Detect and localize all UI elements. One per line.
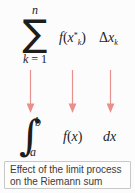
delta-subscript-k: k bbox=[114, 38, 118, 47]
differential-term: dx bbox=[103, 130, 116, 144]
integrand-close-paren: ) bbox=[78, 129, 83, 144]
riemann-sum-expression: n ∑ k = 1 f(x*k) Δxk bbox=[0, 4, 135, 70]
down-arrow-icon-2-head bbox=[69, 104, 77, 114]
down-arrow-icon-3-head bbox=[107, 104, 115, 114]
riemann-sum-to-integral-figure: n ∑ k = 1 f(x*k) Δxk ∫ b bbox=[0, 0, 135, 193]
summation-lower-limit: k = 1 bbox=[9, 52, 61, 66]
integral-notation: ∫ b a bbox=[17, 116, 57, 160]
summation-equals-sign: = bbox=[28, 52, 41, 66]
caption-line-2: on the Riemann sum bbox=[10, 176, 126, 188]
sample-point-function-term: f(x*k) bbox=[59, 31, 86, 45]
summation-start-value: 1 bbox=[41, 52, 47, 66]
summation-notation: n ∑ k = 1 bbox=[9, 4, 61, 66]
delta-x-term: Δxk bbox=[99, 31, 118, 45]
definite-integral-expression: ∫ b a f(x) dx bbox=[0, 116, 135, 160]
close-paren: ) bbox=[81, 30, 86, 45]
delta-icon: Δ bbox=[99, 30, 108, 45]
caption-line-1: Effect of the limit process bbox=[10, 164, 126, 176]
sigma-icon: ∑ bbox=[9, 15, 61, 53]
integral-upper-limit: b bbox=[35, 116, 41, 128]
integrand-function-term: f(x) bbox=[63, 130, 82, 144]
integral-lower-limit: a bbox=[30, 146, 36, 158]
caption-box: Effect of the limit process on the Riema… bbox=[4, 161, 131, 189]
